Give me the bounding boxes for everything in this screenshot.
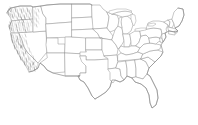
state-north-dakota — [72, 4, 92, 18]
state-alabama — [126, 60, 136, 78]
state-colorado — [65, 37, 86, 54]
state-south-dakota — [72, 17, 94, 30]
state-kansas — [86, 38, 102, 50]
state-minnesota — [92, 5, 109, 29]
state-wyoming — [46, 22, 72, 38]
state-florida — [132, 74, 158, 108]
us-state-map-figure: Contiguous United States state boundary … — [0, 0, 198, 125]
state-utah — [46, 38, 65, 53]
us-map-svg — [0, 0, 198, 125]
state-indiana — [123, 34, 131, 47]
